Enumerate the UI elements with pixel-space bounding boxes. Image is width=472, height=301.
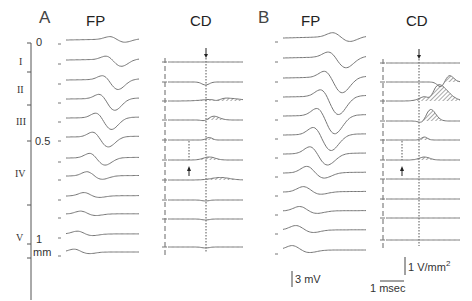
fp-trace (283, 166, 366, 178)
fp-trace (283, 71, 366, 92)
layer-label-ii: II (17, 84, 24, 95)
panel-a-cd-traces (162, 48, 243, 255)
fp-trace (66, 94, 139, 110)
cd-trace (168, 219, 243, 220)
panel-b-label: B (258, 8, 269, 28)
fp-trace (283, 109, 366, 134)
fp-trace (283, 52, 366, 68)
fp-trace (66, 249, 139, 253)
panel-a-cd-title: CD (190, 12, 212, 29)
depth-unit: mm (33, 246, 51, 258)
fp-trace (283, 207, 366, 214)
fp-trace (66, 132, 139, 147)
fp-trace (283, 90, 366, 115)
fp-trace (66, 211, 139, 215)
figure-canvas (0, 0, 472, 301)
fp-trace (66, 172, 139, 180)
fp-trace (66, 56, 139, 66)
fp-trace (283, 246, 366, 253)
fp-trace (66, 37, 139, 43)
depth-tick-0-5: 0.5 (35, 135, 50, 147)
fp-trace (66, 153, 139, 165)
fp-trace (66, 231, 139, 235)
fp-trace (283, 226, 366, 233)
fp-trace (66, 113, 139, 129)
voltage-scale-label: 3 mV (295, 273, 321, 285)
fp-trace (283, 147, 366, 165)
depth-tick-0: 0 (36, 36, 42, 48)
up-arrow-head (187, 166, 191, 171)
fp-trace (283, 128, 366, 151)
up-arrow-head (400, 166, 404, 171)
down-arrow-head (417, 55, 421, 59)
panel-b-fp-title: FP (301, 12, 320, 29)
panel-a-fp-title: FP (86, 12, 105, 29)
depth-axis (27, 43, 31, 300)
cd-trace (386, 110, 460, 123)
depth-axis-ticks (27, 43, 31, 258)
current-density-scale-label: 1 V/mm2 (408, 259, 450, 273)
fp-trace (283, 187, 366, 195)
layer-label-i: I (19, 56, 22, 67)
layer-label-v: V (16, 232, 23, 243)
down-arrow-head (204, 54, 208, 58)
depth-tick-1: 1 (36, 233, 42, 245)
panel-b-fp-traces (275, 33, 366, 254)
current-density-scale-value: 1 V/mm (408, 261, 446, 273)
fp-trace (283, 33, 366, 42)
time-scale-label: 1 msec (370, 282, 405, 294)
layer-label-iii: III (16, 116, 26, 127)
current-density-scale-exponent: 2 (446, 259, 450, 268)
fp-trace (66, 76, 139, 90)
fp-trace (66, 193, 139, 198)
panel-b-cd-title: CD (406, 12, 428, 29)
panel-b-cd-traces (380, 49, 460, 248)
panel-a-label: A (39, 8, 50, 28)
layer-label-iv: IV (15, 168, 26, 179)
panel-a-fp-traces (58, 37, 139, 256)
